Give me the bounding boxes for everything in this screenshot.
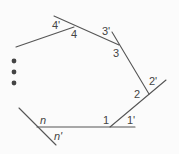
side-3-2-extended: [112, 32, 149, 94]
exterior-label-2prime: 2': [149, 75, 157, 87]
vertex-label-2: 2: [134, 88, 140, 100]
exterior-label-nprime: n': [54, 130, 63, 142]
vertex-label-n: n: [40, 114, 46, 126]
vertex-label-1: 1: [103, 114, 109, 126]
exterior-label-3prime: 3': [102, 25, 110, 37]
exterior-label-1prime: 1': [127, 114, 135, 126]
vertex-label-4: 4: [71, 28, 77, 40]
exterior-label-4prime: 4': [52, 19, 60, 31]
ellipsis-dots: [12, 59, 17, 86]
diagram-svg: 4 3 2 1 n 4' 3' 2' 1' n': [0, 0, 179, 154]
side-left-4: [16, 27, 74, 47]
vertex-label-3: 3: [113, 47, 119, 59]
polygon-diagram: 4 3 2 1 n 4' 3' 2' 1' n': [0, 0, 179, 154]
